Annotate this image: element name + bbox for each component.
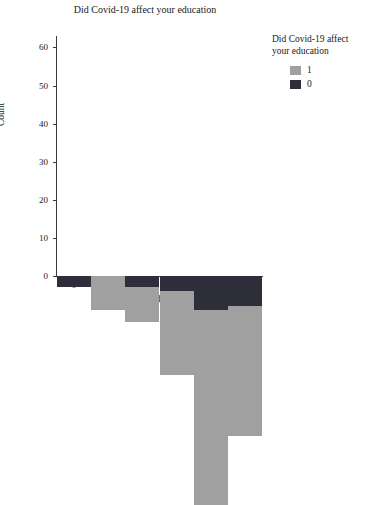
- y-tick-mark: [53, 238, 56, 239]
- legend-swatch: [290, 80, 301, 89]
- bar: [160, 177, 194, 276]
- legend-items: 10: [272, 64, 372, 90]
- chart-title: Did Covid-19 affect your education: [0, 4, 290, 15]
- bar-segment-1: [160, 291, 194, 375]
- y-tick-label: 40: [22, 119, 48, 129]
- bar: [194, 47, 228, 276]
- bar: [57, 265, 91, 276]
- y-tick-mark: [53, 86, 56, 87]
- bar-segment-0: [125, 276, 159, 287]
- legend-label: 0: [307, 79, 312, 89]
- y-tick-label: 20: [22, 195, 48, 205]
- bar-segment-1: [228, 306, 262, 436]
- y-tick-mark: [53, 276, 56, 277]
- legend-swatch: [290, 66, 301, 75]
- bar-segment-0: [194, 276, 228, 310]
- legend-title-line-1: Did Covid-19 affect: [272, 33, 372, 45]
- bar-segment-1: [91, 276, 125, 310]
- plot-area: [57, 36, 262, 276]
- bar-segment-1: [125, 287, 159, 321]
- bar: [91, 242, 125, 276]
- bar-segment-0: [57, 276, 91, 287]
- y-tick-label: 50: [22, 81, 48, 91]
- y-tick-mark: [53, 124, 56, 125]
- bar-segment-0: [160, 276, 194, 291]
- legend-item: 1: [290, 64, 372, 76]
- legend: Did Covid-19 affect your education 10: [272, 33, 372, 92]
- y-tick-mark: [53, 162, 56, 163]
- y-tick-mark: [53, 47, 56, 48]
- y-tick-label: 10: [22, 233, 48, 243]
- legend-title-line-2: your education: [272, 45, 372, 57]
- y-axis-label: Count: [0, 103, 6, 126]
- y-tick-label: 30: [22, 157, 48, 167]
- y-tick-label: 60: [22, 42, 48, 52]
- bar-segment-1: [194, 310, 228, 504]
- y-tick-label: 0: [22, 271, 48, 281]
- legend-label: 1: [307, 65, 312, 75]
- bar: [125, 230, 159, 276]
- legend-item: 0: [290, 78, 372, 90]
- legend-title: Did Covid-19 affect your education: [272, 33, 372, 57]
- bar-segment-0: [228, 276, 262, 306]
- bar: [228, 116, 262, 276]
- y-tick-mark: [53, 200, 56, 201]
